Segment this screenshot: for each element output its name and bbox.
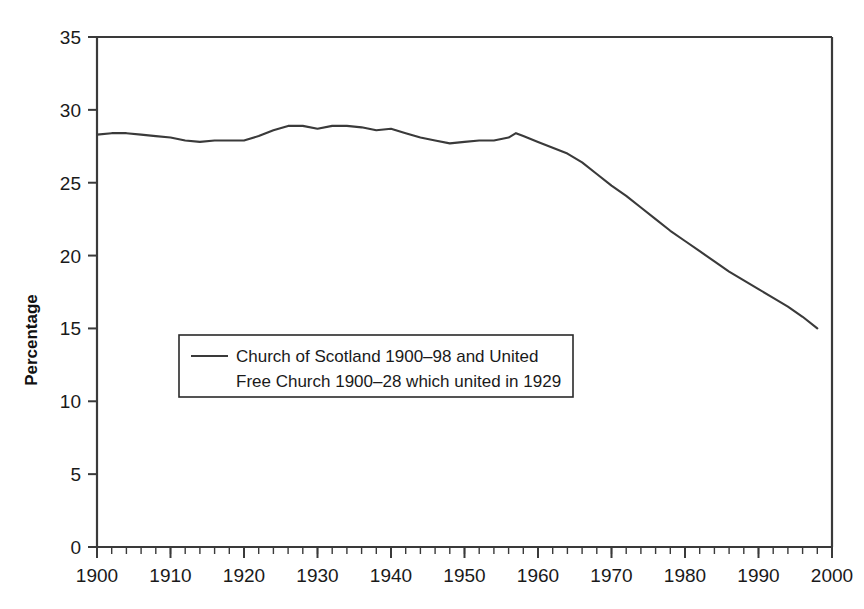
x-tick-label: 1920 — [223, 565, 265, 586]
y-tick-label: 30 — [60, 100, 81, 121]
x-tick-label: 1980 — [664, 565, 706, 586]
legend-label-line-2: Free Church 1900–28 which united in 1929 — [236, 372, 561, 391]
x-tick-label: 1900 — [76, 565, 118, 586]
legend-label-line-1: Church of Scotland 1900–98 and United — [236, 347, 538, 366]
x-tick-label: 2000 — [811, 565, 853, 586]
x-tick-label: 1970 — [590, 565, 632, 586]
x-tick-label: 1940 — [370, 565, 412, 586]
y-tick-label: 0 — [70, 537, 81, 558]
y-tick-label: 15 — [60, 318, 81, 339]
x-tick-label: 1930 — [296, 565, 338, 586]
x-tick-label: 1990 — [737, 565, 779, 586]
y-tick-label: 35 — [60, 27, 81, 48]
chart-background — [0, 0, 864, 609]
y-tick-label: 10 — [60, 391, 81, 412]
y-axis-title: Percentage — [22, 294, 41, 386]
line-chart: 05101520253035 1900191019201930194019501… — [0, 0, 864, 609]
chart-container: 05101520253035 1900191019201930194019501… — [0, 0, 864, 609]
y-tick-label: 25 — [60, 173, 81, 194]
x-tick-label: 1910 — [149, 565, 191, 586]
y-tick-label: 20 — [60, 246, 81, 267]
y-tick-label: 5 — [70, 464, 81, 485]
x-tick-label: 1950 — [443, 565, 485, 586]
x-tick-label: 1960 — [517, 565, 559, 586]
legend: Church of Scotland 1900–98 and United Fr… — [179, 335, 573, 397]
